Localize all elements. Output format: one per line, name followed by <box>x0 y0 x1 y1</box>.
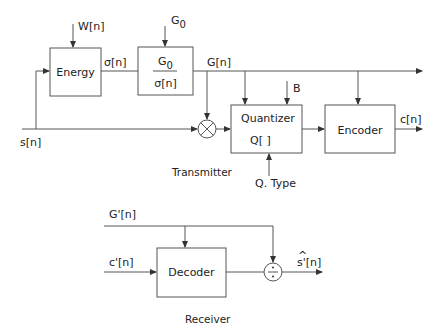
quantizer-function: Q[ ] <box>250 134 271 147</box>
transmitter-caption: Transmitter <box>171 166 233 178</box>
window-label: W[n] <box>78 20 104 33</box>
bits-label: B <box>293 82 301 95</box>
divider-icon <box>264 263 282 281</box>
energy-block-label: Energy <box>56 66 95 79</box>
multiplier-icon <box>198 120 216 138</box>
receiver-gain-label: G'[n] <box>109 208 136 221</box>
decoder-block-label: Decoder <box>168 266 215 279</box>
code-output-label: c[n] <box>400 113 422 126</box>
reconstructed-output-label: s'[n] <box>297 256 321 269</box>
energy-branch <box>36 71 49 129</box>
encoder-block-label: Encoder <box>338 124 383 137</box>
block-diagram: W[n] Energy σ[n] G0 G0 σ[n] G[n] s[n] B … <box>0 0 445 335</box>
gain-denominator: σ[n] <box>154 77 177 90</box>
gain-label: G[n] <box>207 56 231 69</box>
quantizer-title: Quantizer <box>241 112 295 125</box>
g0-label: G0 <box>171 14 186 30</box>
receiver-code-label: c'[n] <box>109 256 134 269</box>
receiver-caption: Receiver <box>185 313 231 325</box>
signal-label: s[n] <box>20 136 41 149</box>
qtype-label: Q. Type <box>255 177 296 190</box>
sigma-label: σ[n] <box>104 56 127 69</box>
